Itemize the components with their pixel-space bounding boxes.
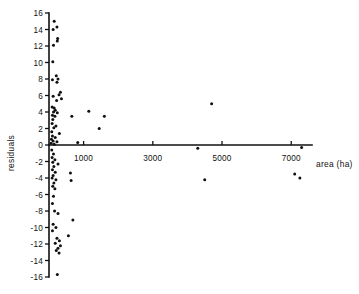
data-point [54,171,57,174]
data-point [55,81,58,84]
data-point [53,143,56,146]
data-point [51,122,54,125]
data-point [51,134,54,137]
data-point [56,40,59,43]
data-point [54,242,57,245]
data-point [52,153,55,156]
data-point [51,185,54,188]
y-tick-label: -6 [35,191,43,200]
data-point [53,158,56,161]
data-point [52,126,55,129]
data-point [53,187,56,190]
data-point [59,244,62,247]
data-point [51,177,54,180]
y-tick-label: 2 [38,125,43,134]
data-point [50,130,53,133]
data-point [87,110,90,113]
data-point [51,156,54,159]
y-tick-label: 16 [33,9,43,18]
data-point [55,249,58,252]
data-point [98,127,101,130]
data-point [52,165,55,168]
axes-group [49,13,312,277]
y-tick-label: -14 [31,257,44,266]
data-point [56,212,59,215]
data-point [52,195,55,198]
data-point [51,202,54,205]
y-tick-label: -12 [31,240,44,249]
y-tick-label: 12 [33,42,43,51]
data-point [60,97,63,100]
data-point [71,219,74,222]
data-point [51,118,54,121]
data-point [58,252,61,255]
data-point [51,60,54,63]
y-tick-label: 0 [38,141,43,150]
data-point [300,146,303,149]
x-axis-title: area (ha) [316,159,353,169]
data-point [76,141,79,144]
y-tick-label: 6 [38,92,43,101]
x-tick-label: 3000 [143,154,162,163]
residuals-scatter-figure: -16-14-12-10-8-6-4-20246810121416 100030… [0,0,359,294]
data-points-group [50,20,304,276]
data-point [203,178,206,181]
data-point [67,234,70,237]
data-point [53,20,56,23]
data-point [56,162,59,165]
data-point [53,115,56,118]
data-point [56,111,59,114]
y-tick-label: -8 [35,207,43,216]
data-point [58,93,61,96]
data-point [52,181,55,184]
y-tick-label: -2 [35,158,43,167]
data-point [55,99,58,102]
data-point [52,139,55,142]
data-point [103,115,106,118]
data-point [51,168,54,171]
scatter-plot-canvas: -16-14-12-10-8-6-4-20246810121416 100030… [0,0,359,294]
x-tick-label: 1000 [74,154,93,163]
y-tick-label: 8 [38,75,43,84]
x-tick-label: 5000 [213,154,232,163]
data-point [196,147,199,150]
data-point [52,223,55,226]
data-point [293,172,296,175]
data-point [54,136,57,139]
data-point [50,142,53,145]
y-tick-label: -4 [35,174,43,183]
y-tick-label: 10 [33,59,43,68]
y-ticks-group: -16-14-12-10-8-6-4-20246810121416 [31,9,49,282]
data-point [54,178,57,181]
data-point [54,226,57,229]
data-point [56,273,59,276]
data-point [58,132,61,135]
data-point [298,177,301,180]
data-point [55,74,58,77]
data-point [56,247,59,250]
data-point [51,78,54,81]
y-axis-title: residuals [6,135,16,171]
data-point [51,229,54,232]
y-tick-label: -16 [31,273,44,282]
y-tick-label: -10 [31,224,44,233]
data-point [56,78,59,81]
data-point [52,44,55,47]
data-point [52,111,55,114]
y-tick-label: 4 [38,108,43,117]
data-point [210,102,213,105]
data-point [52,95,55,98]
data-point [58,239,61,242]
data-point [52,28,55,31]
data-point [55,237,58,240]
data-point [70,115,73,118]
data-point [53,210,56,213]
data-point [70,179,73,182]
data-point [51,161,54,164]
data-point [50,148,53,151]
x-tick-label: 7000 [282,154,301,163]
data-point [55,26,58,29]
data-point [55,140,58,143]
data-point [69,172,72,175]
y-tick-label: 14 [33,26,43,35]
